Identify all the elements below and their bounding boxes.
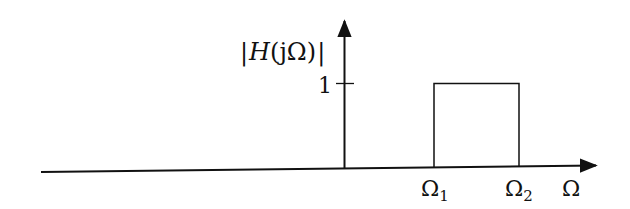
x-tick-label-omega1: Ω1	[421, 176, 449, 205]
x-axis-label: Ω	[562, 176, 580, 201]
passband-rectangle	[434, 84, 519, 168]
y-tick-label: 1	[318, 73, 332, 98]
x-tick-label-omega2: Ω2	[505, 176, 533, 205]
x-axis	[41, 166, 596, 173]
bandpass-response-diagram: |H(jΩ)| 1 Ω1 Ω2 Ω	[0, 0, 630, 209]
y-axis-label: |H(jΩ)|	[240, 38, 325, 67]
